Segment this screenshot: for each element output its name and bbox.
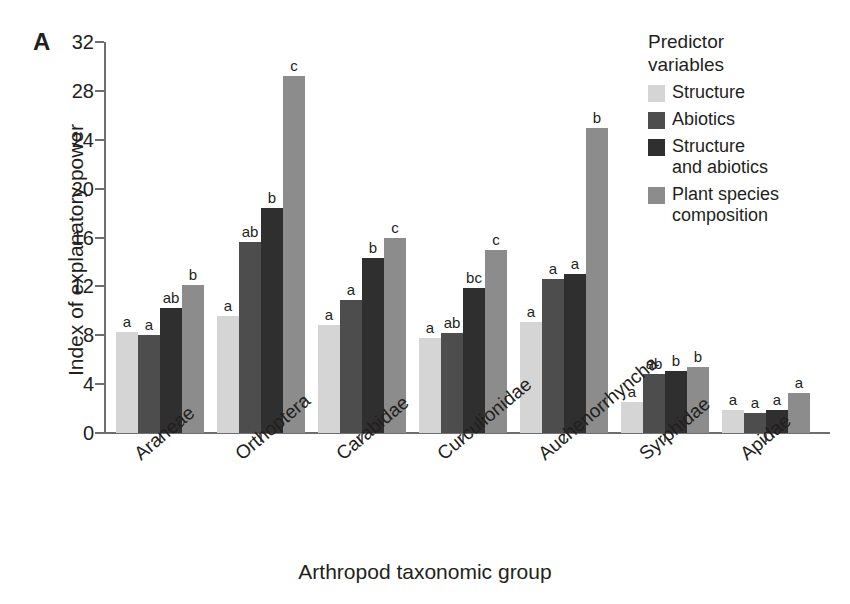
- significance-letter: b: [681, 349, 715, 364]
- bar[interactable]: [722, 410, 744, 433]
- bar-group: aaab: [520, 42, 608, 433]
- y-axis-tick: [95, 139, 104, 141]
- legend-title: Predictor variables: [648, 30, 848, 76]
- y-axis-tick: [95, 41, 104, 43]
- bar-group: aabbc: [217, 42, 305, 433]
- bar[interactable]: [261, 208, 283, 433]
- bar[interactable]: [116, 332, 138, 433]
- bar[interactable]: [419, 338, 441, 433]
- y-axis-tick: [95, 90, 104, 92]
- y-axis-tick-labels: 048121620242832: [48, 42, 94, 434]
- bar[interactable]: [318, 325, 340, 433]
- bar[interactable]: [621, 402, 643, 433]
- y-axis-tick: [95, 432, 104, 434]
- legend-swatch: [648, 112, 665, 129]
- significance-letter: c: [277, 58, 311, 73]
- bar-group: aabbcc: [419, 42, 507, 433]
- significance-letter: c: [479, 232, 513, 247]
- y-axis-tick-label: 16: [72, 228, 94, 248]
- y-axis-tick: [95, 188, 104, 190]
- legend-items: StructureAbioticsStructure and abioticsP…: [648, 82, 848, 227]
- bar[interactable]: [441, 333, 463, 433]
- legend-swatch: [648, 139, 665, 156]
- legend-label: Abiotics: [672, 109, 735, 131]
- bar[interactable]: [340, 300, 362, 433]
- legend-item[interactable]: Abiotics: [648, 109, 848, 131]
- bar[interactable]: [138, 335, 160, 433]
- significance-letter: b: [580, 110, 614, 125]
- bar-group: aaabb: [116, 42, 204, 433]
- bar[interactable]: [283, 76, 305, 433]
- legend-label: Structure and abiotics: [672, 136, 768, 179]
- legend-swatch: [648, 85, 665, 102]
- legend-item[interactable]: Structure and abiotics: [648, 136, 848, 179]
- legend-item[interactable]: Structure: [648, 82, 848, 104]
- legend-label: Plant species composition: [672, 184, 779, 227]
- legend-item[interactable]: Plant species composition: [648, 184, 848, 227]
- y-axis-tick-label: 28: [72, 81, 94, 101]
- y-axis-tick: [95, 237, 104, 239]
- significance-letter: c: [378, 220, 412, 235]
- y-axis-tick-label: 8: [83, 325, 94, 345]
- x-axis-title: Arthropod taxonomic group: [0, 560, 850, 584]
- y-axis-tick-label: 24: [72, 130, 94, 150]
- y-axis-tick-label: 12: [72, 276, 94, 296]
- significance-letter: b: [176, 267, 210, 282]
- y-axis-tick: [95, 383, 104, 385]
- significance-letter: a: [782, 375, 816, 390]
- y-axis-tick-label: 0: [83, 423, 94, 443]
- y-axis-tick-label: 32: [72, 32, 94, 52]
- y-axis-tick: [95, 334, 104, 336]
- bar-group: aabc: [318, 42, 406, 433]
- y-axis-tick-label: 20: [72, 179, 94, 199]
- y-axis-tick-label: 4: [83, 374, 94, 394]
- bar[interactable]: [239, 242, 261, 433]
- legend-swatch: [648, 187, 665, 204]
- bar[interactable]: [542, 279, 564, 433]
- legend: Predictor variables StructureAbioticsStr…: [648, 30, 848, 232]
- legend-label: Structure: [672, 82, 745, 104]
- bar[interactable]: [217, 316, 239, 433]
- bar-chart-figure: A Index of explanatory power 04812162024…: [0, 0, 850, 604]
- y-axis-tick: [95, 285, 104, 287]
